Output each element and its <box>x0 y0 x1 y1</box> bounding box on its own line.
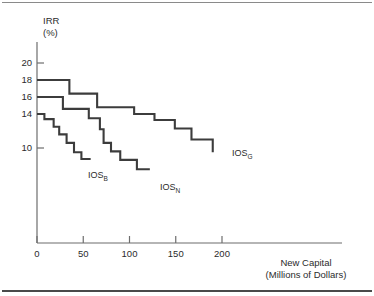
x-tick-label: 50 <box>78 248 89 259</box>
figure-frame: 2018161410 050100150200 IRR (%) New Capi… <box>0 0 374 296</box>
x-tick-label: 150 <box>168 248 184 259</box>
series-label-ios-b-sub: B <box>104 175 108 182</box>
x-tick-label: 0 <box>34 248 39 259</box>
series-label-ios-b-base: IOS <box>88 170 104 180</box>
series-label-ios-n-base: IOS <box>160 182 176 192</box>
series-label-ios-n-sub: N <box>176 187 181 194</box>
y-axis-title-line1: IRR <box>43 15 60 26</box>
x-axis-ticks: 050100150200 <box>34 236 230 259</box>
chart-plot-area: 2018161410 050100150200 IRR (%) New Capi… <box>0 0 374 296</box>
y-tick-label: 18 <box>21 74 32 85</box>
y-tick-label: 16 <box>21 91 32 102</box>
y-axis-ticks: 2018161410 <box>21 57 44 153</box>
series-label-ios-g-sub: G <box>248 153 253 160</box>
series-label-ios-n: IOSN <box>160 182 181 194</box>
series-label-ios-b: IOSB <box>88 170 108 182</box>
series-group <box>37 80 213 169</box>
series-line-ios-b <box>37 114 91 159</box>
x-tick-label: 100 <box>122 248 138 259</box>
x-axis-title-line1: New Capital <box>280 257 331 268</box>
y-axis-title-line2: (%) <box>43 27 58 38</box>
x-tick-label: 200 <box>214 248 230 259</box>
y-tick-label: 20 <box>21 57 32 68</box>
y-tick-label: 10 <box>21 142 32 153</box>
series-label-ios-g: IOSG <box>232 148 253 160</box>
series-line-ios-g <box>37 80 213 152</box>
y-tick-label: 14 <box>21 108 32 119</box>
series-label-ios-g-base: IOS <box>232 148 248 158</box>
x-axis-title-line2: (Millions of Dollars) <box>266 269 347 280</box>
ios-chart-svg: 2018161410 050100150200 IRR (%) New Capi… <box>0 0 374 296</box>
